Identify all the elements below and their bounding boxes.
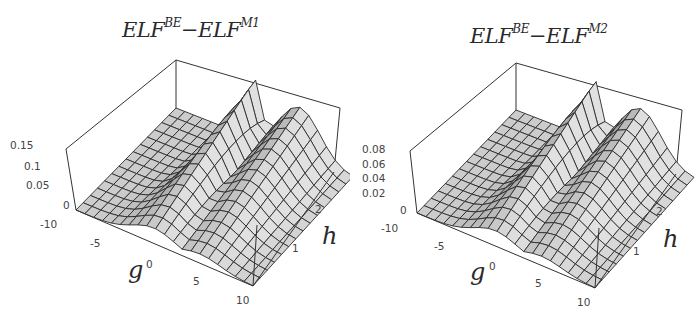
z-tick: 0 xyxy=(63,199,70,211)
z-tick: 0.15 xyxy=(10,139,33,151)
x-tick: 10 xyxy=(577,296,590,308)
surface-plot-m2 xyxy=(350,0,699,324)
x-axis-label: g xyxy=(470,258,485,286)
z-tick: 0.02 xyxy=(362,187,385,199)
surface-mesh xyxy=(417,82,694,288)
x-tick: 5 xyxy=(193,275,200,287)
x-tick: -5 xyxy=(434,240,444,252)
y-tick: 2 xyxy=(315,203,322,215)
z-tick: 0.08 xyxy=(362,143,385,155)
x-tick: 10 xyxy=(236,294,249,306)
z-tick: 0.04 xyxy=(362,172,385,184)
y-tick: 1 xyxy=(292,242,299,254)
x-tick: 0 xyxy=(146,258,153,270)
x-tick: 0 xyxy=(489,260,496,272)
x-tick: 5 xyxy=(535,277,542,289)
z-tick: 0.06 xyxy=(362,158,385,170)
surface-mesh xyxy=(76,80,350,286)
surface-plot-m1 xyxy=(0,0,350,324)
chart-panel-m1: ELFBE−ELFM1 0.15 0.1 0.05 0 -10 -5 0 5 1… xyxy=(0,0,350,324)
x-tick: -5 xyxy=(90,237,100,249)
x-tick: -10 xyxy=(40,218,57,230)
y-tick: 2 xyxy=(656,205,663,217)
y-tick: 1 xyxy=(633,245,640,257)
z-tick: 0.05 xyxy=(26,179,49,191)
y-axis-label: h xyxy=(322,222,337,250)
z-tick: 0.1 xyxy=(24,160,41,172)
chart-panel-m2: ELFBE−ELFM2 0.08 0.06 0.04 0.02 0 -10 -5… xyxy=(350,0,699,324)
y-axis-label: h xyxy=(663,225,678,253)
x-axis-label: g xyxy=(128,256,143,284)
z-tick: 0 xyxy=(400,204,407,216)
x-tick: -10 xyxy=(381,222,398,234)
